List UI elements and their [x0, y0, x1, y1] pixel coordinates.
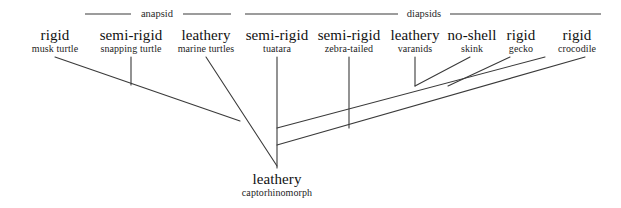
taxon-gecko: rigidgecko	[507, 28, 536, 54]
taxon-name-tuatara: tuatara	[246, 44, 309, 54]
taxon-tuatara: semi-rigidtuatara	[246, 28, 309, 54]
taxon-egg-type-zebra-tailed: semi-rigid	[318, 28, 381, 43]
branch-lines	[55, 57, 585, 168]
taxon-name-snapping-turtle: snapping turtle	[100, 44, 163, 54]
taxon-name-varanids: varanids	[390, 44, 439, 54]
taxon-egg-type-crocodile: rigid	[558, 28, 596, 43]
taxon-crocodile: rigidcrocodile	[558, 28, 596, 54]
taxon-skink: no-shellskink	[447, 28, 496, 54]
taxon-name-gecko: gecko	[507, 44, 536, 54]
taxon-musk-turtle: rigidmusk turtle	[32, 28, 78, 54]
branch-diapsid-upper-spine	[277, 57, 545, 128]
taxon-name-crocodile: crocodile	[558, 44, 596, 54]
taxon-zebra-tailed: semi-rigidzebra-tailed	[318, 28, 381, 54]
taxon-name-zebra-tailed: zebra-tailed	[318, 44, 381, 54]
root-egg-type: leathery	[242, 172, 312, 187]
clade-label-diapsids: diapsids	[403, 8, 445, 20]
taxon-egg-type-musk-turtle: rigid	[32, 28, 78, 43]
branch-diapsid-lower-spine	[277, 57, 585, 145]
taxon-name-marine-turtles: marine turtles	[178, 44, 235, 54]
taxon-egg-type-marine-turtles: leathery	[178, 28, 235, 43]
taxon-egg-type-snapping-turtle: semi-rigid	[100, 28, 163, 43]
clade-label-anapsid: anapsid	[137, 8, 177, 20]
cladogram-figure: anapsiddiapsids rigidmusk turtlesemi-rig…	[0, 0, 621, 208]
taxon-egg-type-varanids: leathery	[390, 28, 439, 43]
taxon-snapping-turtle: semi-rigidsnapping turtle	[100, 28, 163, 54]
taxon-egg-type-gecko: rigid	[507, 28, 536, 43]
taxon-name-musk-turtle: musk turtle	[32, 44, 78, 54]
branch-skink-join	[415, 57, 470, 86]
taxon-egg-type-tuatara: semi-rigid	[246, 28, 309, 43]
taxon-varanids: leatheryvaranids	[390, 28, 439, 54]
taxon-name-skink: skink	[447, 44, 496, 54]
taxon-egg-type-skink: no-shell	[447, 28, 496, 43]
taxon-marine-turtles: leatherymarine turtles	[178, 28, 235, 54]
branch-marine-turtles-to-root	[206, 57, 277, 166]
root-taxon-label: leathery captorhinomorph	[242, 172, 312, 198]
root-taxon-name: captorhinomorph	[242, 188, 312, 198]
